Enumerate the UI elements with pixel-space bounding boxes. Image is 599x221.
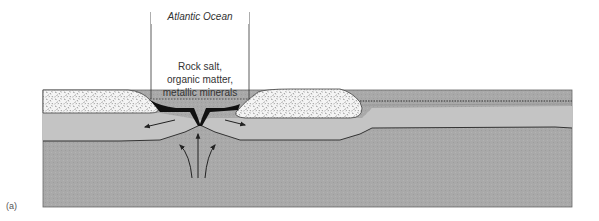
rifting-cross-section-figure: Atlantic Ocean Rock salt, organic matter… <box>0 0 599 221</box>
deposit-line-metallic-minerals: metallic minerals <box>148 86 252 99</box>
cross-section-diagram <box>0 0 599 221</box>
panel-label: (a) <box>6 201 17 211</box>
deposit-label: Rock salt, organic matter, metallic mine… <box>148 60 252 99</box>
left-continent <box>43 90 158 113</box>
deposit-line-rock-salt: Rock salt, <box>148 60 252 73</box>
deposit-line-organic-matter: organic matter, <box>148 73 252 86</box>
